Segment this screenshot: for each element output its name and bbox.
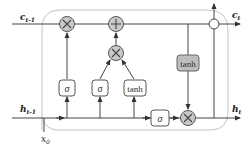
output-gate-box: σ [151, 110, 169, 126]
output-multiply-op [181, 111, 196, 126]
c-prev-label: ct-1 [20, 12, 35, 23]
cell-add-op [109, 17, 124, 32]
c-next-label: ct [232, 10, 240, 21]
candidate-gate-box: tanh [124, 80, 146, 96]
svg-text:tanh: tanh [180, 59, 196, 69]
forget-multiply-op [60, 17, 75, 32]
output-junction-op [209, 19, 219, 29]
cell-tanh-box: tanh [177, 55, 199, 71]
input-multiply-op [109, 46, 124, 61]
svg-text:tanh: tanh [127, 84, 143, 94]
input-gate-box: σ [92, 80, 108, 96]
lstm-diagram: σ σ tanh σ tanh ct-1 ct ht-1 ht x0 [0, 0, 246, 153]
forget-gate-box: σ [59, 80, 75, 96]
x-input-label: x0 [41, 134, 50, 145]
h-prev-label: ht-1 [20, 104, 36, 115]
h-next-label: ht [232, 104, 242, 115]
